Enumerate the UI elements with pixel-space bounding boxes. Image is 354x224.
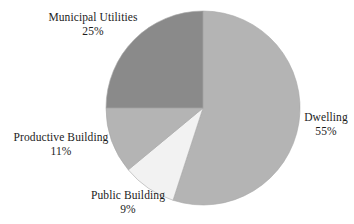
pie-label-dwelling-name: Dwelling	[298, 111, 354, 125]
pie-label-municipal-utilities-percent: 25%	[18, 25, 168, 39]
pie-label-dwelling-percent: 55%	[298, 125, 354, 139]
pie-chart: Municipal Utilities 25% Dwelling 55% Pro…	[0, 0, 354, 224]
pie-label-public-building-percent: 9%	[67, 203, 189, 217]
pie-label-productive-building-percent: 11%	[0, 145, 122, 159]
pie-label-public-building: Public Building 9%	[67, 189, 189, 216]
pie-label-productive-building-name: Productive Building	[0, 131, 122, 145]
pie-label-municipal-utilities: Municipal Utilities 25%	[18, 11, 168, 38]
pie-label-public-building-name: Public Building	[67, 189, 189, 203]
pie-label-productive-building: Productive Building 11%	[0, 131, 122, 158]
pie-label-dwelling: Dwelling 55%	[298, 111, 354, 138]
pie-label-municipal-utilities-name: Municipal Utilities	[18, 11, 168, 25]
pie-slice-group	[106, 11, 300, 205]
